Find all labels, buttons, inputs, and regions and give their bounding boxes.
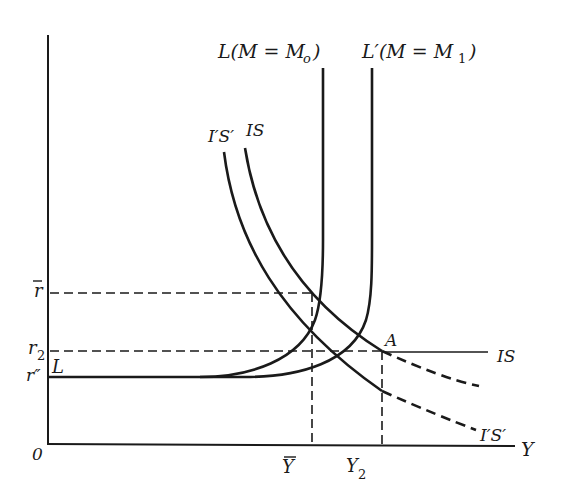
y-tick-r-bar: r (33, 280, 44, 301)
i-prime-s-prime-curve-dashed (382, 391, 476, 430)
is-top-label: IS (245, 120, 264, 140)
r2-subscript: 2 (37, 348, 45, 363)
i-prime-s-prime-top-label: I′S′ (207, 126, 234, 146)
l-prime-label-sub: 1 (458, 51, 466, 66)
y2-subscript: 2 (358, 467, 366, 482)
origin-label: 0 (32, 444, 43, 464)
i-prime-s-prime-curve (224, 152, 382, 391)
l-curve-label: L(M = M o ) (217, 40, 320, 66)
l-label-close: ) (312, 40, 320, 62)
x-axis-label: Y (521, 438, 536, 460)
y-bar-label: Y (282, 456, 296, 477)
is-lm-diagram: 0 Y r r 2 r″ Y Y 2 L(M = M o ) L′(M (0, 0, 563, 502)
i-prime-s-prime-right-label: I′S′ (479, 425, 506, 445)
x-axis (47, 444, 515, 446)
point-a-label: A (383, 330, 397, 350)
y-tick-r2: r 2 (28, 337, 45, 363)
l-label-sub: o (303, 51, 311, 66)
l-prime-curve (200, 68, 372, 377)
is-right-label: IS (496, 346, 515, 366)
x-tick-y-bar: Y (282, 456, 296, 477)
l-prime-curve-label: L′(M = M 1 ) (361, 40, 476, 66)
is-curve-dashed (382, 351, 479, 386)
l-bottom-label: L (51, 356, 64, 377)
l-prime-label-close: ) (468, 40, 476, 62)
l-prime-label-text: L′(M = M (361, 40, 454, 62)
l-curve (48, 68, 323, 377)
r-double-prime-label: r″ (26, 365, 41, 385)
x-tick-y2: Y 2 (346, 455, 366, 482)
l-label-text: L(M = M (217, 40, 305, 62)
r-bar-label: r (34, 280, 44, 301)
